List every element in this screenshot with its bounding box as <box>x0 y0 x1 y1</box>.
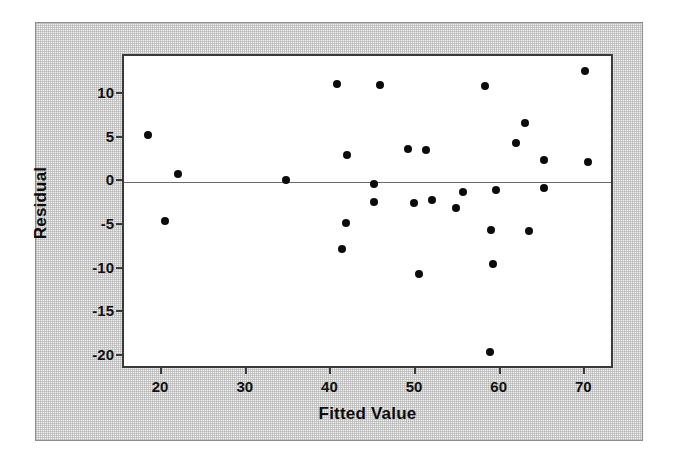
data-point <box>342 219 350 227</box>
data-point <box>404 145 412 153</box>
data-point <box>581 67 589 75</box>
x-axis-tick-label: 20 <box>135 379 185 394</box>
data-point <box>415 270 423 278</box>
x-axis-tick-label: 30 <box>220 379 270 394</box>
x-axis-tick-mark <box>160 368 162 374</box>
data-point <box>338 245 346 253</box>
data-point <box>452 204 460 212</box>
residual-scatter-figure: 1050-5-10-15-20 Fitted Value Residual 20… <box>0 0 673 461</box>
data-point <box>481 82 489 90</box>
data-point <box>333 80 341 88</box>
x-axis-tick-mark <box>499 368 501 374</box>
y-axis-tick-labels: 1050-5-10-15-20 <box>66 0 114 461</box>
y-axis-tick-label: 0 <box>72 172 114 187</box>
y-axis-tick-label: 10 <box>72 85 114 100</box>
data-point <box>584 158 592 166</box>
data-point <box>487 226 495 234</box>
y-axis-tick-mark <box>116 136 122 138</box>
data-point <box>428 196 436 204</box>
y-axis-tick-mark <box>116 310 122 312</box>
data-point <box>144 131 152 139</box>
x-axis-label: Fitted Value <box>122 404 613 424</box>
data-point <box>370 198 378 206</box>
y-axis-tick-mark <box>116 354 122 356</box>
data-point <box>512 139 520 147</box>
y-axis-tick-label: -5 <box>72 216 114 231</box>
data-point <box>540 184 548 192</box>
x-axis-tick-label: 70 <box>558 379 608 394</box>
x-axis-tick-mark <box>583 368 585 374</box>
y-axis-tick-mark <box>116 223 122 225</box>
data-point <box>489 260 497 268</box>
zero-reference-line <box>124 182 611 183</box>
y-axis-tick-mark <box>116 267 122 269</box>
y-axis-tick-mark <box>116 179 122 181</box>
x-axis-tick-mark <box>329 368 331 374</box>
y-axis-tick-label: 5 <box>72 129 114 144</box>
x-axis-tick-label: 50 <box>389 379 439 394</box>
y-axis-tick-label: -10 <box>72 260 114 275</box>
data-point <box>540 156 548 164</box>
data-point <box>161 217 169 225</box>
y-axis-label: Residual <box>31 123 51 283</box>
plot-frame <box>122 54 613 368</box>
data-point <box>370 180 378 188</box>
data-point <box>521 119 529 127</box>
data-point <box>376 81 384 89</box>
data-point <box>486 348 494 356</box>
data-point <box>282 176 290 184</box>
y-axis-tick-label: -15 <box>72 303 114 318</box>
x-axis-tick-mark <box>245 368 247 374</box>
data-point <box>459 188 467 196</box>
plot-area <box>124 56 611 366</box>
x-axis-tick-label: 60 <box>474 379 524 394</box>
data-point <box>174 170 182 178</box>
data-point <box>410 199 418 207</box>
y-axis-tick-label: -20 <box>72 347 114 362</box>
x-axis-tick-label: 40 <box>304 379 354 394</box>
data-point <box>492 186 500 194</box>
data-point <box>525 227 533 235</box>
data-point <box>343 151 351 159</box>
data-point <box>422 146 430 154</box>
y-axis-tick-mark <box>116 92 122 94</box>
x-axis-tick-mark <box>414 368 416 374</box>
